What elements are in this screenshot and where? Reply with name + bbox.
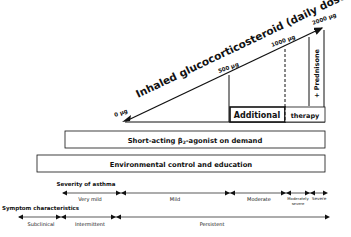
severity-very-mild: Very mild [78, 196, 102, 203]
environmental-label: Environmental control and education [110, 161, 253, 169]
dose-0-label: 0 µg [113, 108, 128, 119]
symptom-marker-2 [111, 215, 121, 220]
symptom-arrow-right [325, 215, 330, 220]
severity-scale: Severity of asthma Very mild Mild Modera… [57, 181, 328, 206]
symptom-intermittent: Intermittent [75, 221, 105, 227]
additional-label: Additional [234, 111, 281, 120]
symptom-marker-1 [56, 215, 66, 220]
symptom-scale: Symptom characteristics Subclinical Inte… [2, 205, 330, 227]
symptom-subclinical: Subclinical [28, 221, 55, 227]
short-acting-box: Short-acting β2-agonist on demand [65, 131, 325, 148]
origin-arrowhead [122, 115, 131, 122]
severity-moderate: Moderate [247, 196, 271, 202]
environmental-box: Environmental control and education [37, 155, 325, 172]
severity-arrow-right [323, 191, 328, 196]
severity-severe-sub: severe [292, 201, 305, 206]
severity-marker-2 [225, 191, 235, 196]
severity-title: Severity of asthma [57, 181, 116, 188]
asthma-treatment-diagram: Inhaled glucocorticosteroid (daily dose)… [0, 0, 351, 237]
symptom-persistent: Persistent [200, 221, 225, 227]
therapy-label: therapy [291, 112, 320, 120]
severity-mild: Mild [170, 196, 180, 202]
severity-arrow-left [62, 191, 67, 196]
symptom-title: Symptom characteristics [2, 205, 80, 212]
severity-severe: Severe [312, 196, 327, 201]
symptom-arrow-left [18, 215, 23, 220]
short-acting-label: Short-acting β2-agonist on demand [128, 137, 263, 146]
severity-marker-1 [116, 191, 126, 196]
additional-therapy: Additional therapy [230, 107, 325, 122]
prednisone-label: + Prednisone [313, 48, 321, 98]
steroid-triangle: Inhaled glucocorticosteroid (daily dose)… [113, 0, 351, 122]
